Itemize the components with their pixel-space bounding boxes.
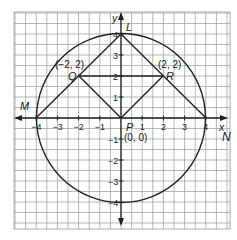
y-axis-down-arrow-icon xyxy=(118,218,124,226)
x-tick-label: −2 xyxy=(74,122,84,132)
point-label-Q: Q xyxy=(68,70,77,82)
y-tick-label: −4 xyxy=(108,198,118,208)
y-axis xyxy=(118,12,124,226)
y-tick-label: 2 xyxy=(113,72,118,82)
x-tick-label: 3 xyxy=(182,122,187,132)
y-tick-label: −3 xyxy=(108,177,118,187)
point-label-L: L xyxy=(126,21,132,33)
y-tick-label: −1 xyxy=(108,135,118,145)
point-coords-P: (0, 0) xyxy=(124,132,147,143)
x-tick-label: −4 xyxy=(31,122,41,132)
point-label-M: M xyxy=(20,100,30,112)
point-coords-Q: (−2, 2) xyxy=(55,59,84,70)
y-tick-label: 4 xyxy=(113,30,118,40)
y-tick-label: −2 xyxy=(108,156,118,166)
grid xyxy=(14,12,230,229)
y-axis-label: y xyxy=(111,12,118,24)
point-label-N: N xyxy=(222,130,231,144)
x-tick-label: −3 xyxy=(52,122,62,132)
y-tick-label: 1 xyxy=(113,93,118,103)
point-coords-R: (2, 2) xyxy=(158,59,181,70)
x-tick-label: 4 xyxy=(203,122,208,132)
point-label-R: R xyxy=(166,70,174,82)
x-tick-label: −1 xyxy=(95,122,105,132)
y-tick-label: 3 xyxy=(113,51,118,61)
x-tick-label: 2 xyxy=(161,122,166,132)
coordinate-diagram: −4−3−2−112344321−1−2−3−4 y x L M N P (0,… xyxy=(0,0,237,240)
x-tick-label: 1 xyxy=(140,122,145,132)
